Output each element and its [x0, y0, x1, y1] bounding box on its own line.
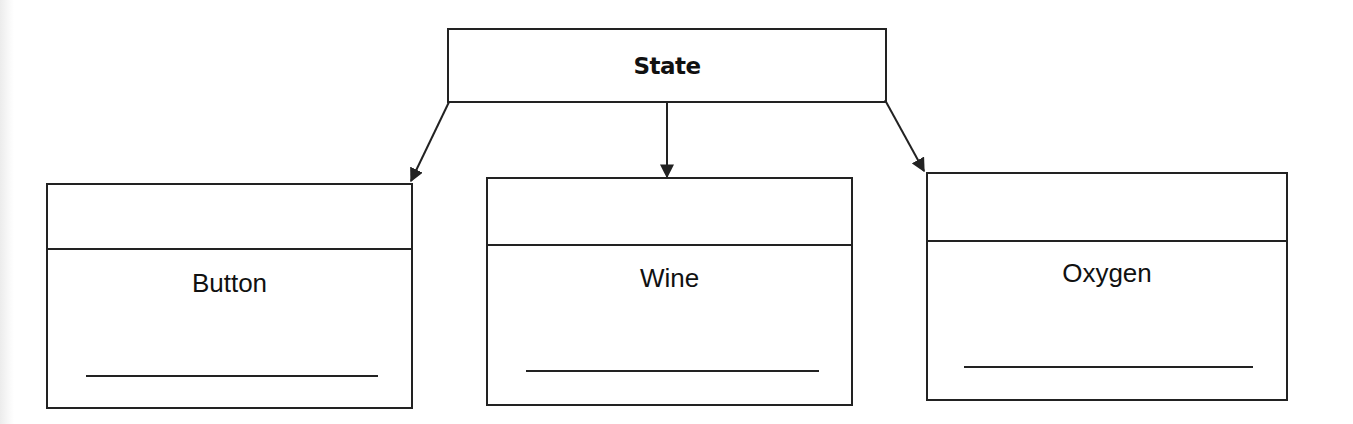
oxygen-class-name: Oxygen: [928, 258, 1286, 289]
button-class-box: Button: [46, 183, 413, 409]
oxygen-answer-line[interactable]: [964, 366, 1253, 368]
state-class-box: State: [447, 28, 887, 103]
button-class-header: [48, 185, 411, 250]
oxygen-class-box: Oxygen: [926, 172, 1288, 401]
wine-class-header: [488, 179, 851, 246]
button-answer-line[interactable]: [86, 375, 378, 377]
state-class-title: State: [633, 53, 700, 79]
oxygen-class-header: [928, 174, 1286, 242]
wine-answer-line[interactable]: [526, 370, 819, 372]
arrow-state-to-oxygen: [885, 100, 924, 171]
wine-class-name: Wine: [488, 263, 851, 294]
wine-class-box: Wine: [486, 177, 853, 406]
button-class-name: Button: [48, 268, 411, 299]
arrow-state-to-button: [411, 102, 449, 181]
